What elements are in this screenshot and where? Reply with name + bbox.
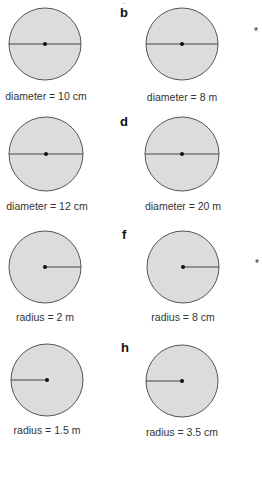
label-g: radius = 1.5 m — [0, 424, 102, 436]
circle-h-radius — [146, 345, 218, 417]
label-b: diameter = 8 m — [127, 91, 237, 103]
label-h: radius = 3.5 cm — [127, 426, 237, 438]
circle-e-radius — [9, 231, 81, 303]
label-a: diameter = 10 cm — [0, 90, 101, 102]
circle-b-diameter — [146, 8, 218, 80]
label-c: diameter = 12 cm — [0, 200, 102, 212]
circle-diagrams — [0, 0, 262, 485]
circle-f-radius — [147, 231, 219, 303]
circle-d-diameter — [145, 117, 219, 191]
label-e: radius = 2 m — [0, 311, 100, 323]
circle-c-diameter — [9, 117, 83, 191]
circle-g-radius — [11, 344, 83, 416]
label-d: diameter = 20 m — [128, 200, 238, 212]
circle-a-diameter — [9, 8, 81, 80]
label-f: radius = 8 cm — [128, 311, 238, 323]
